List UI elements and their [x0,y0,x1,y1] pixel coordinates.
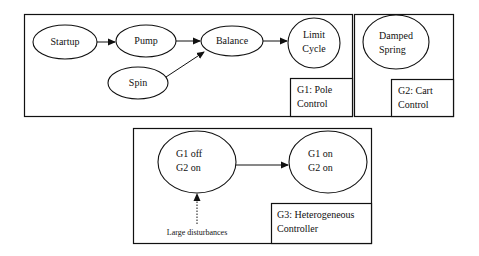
node-g1on-g2on-label: G1 on G2 on [308,147,358,174]
node-damped-spring-label: Damped Spring [379,29,433,56]
node-g1off-g2on-line1: G1 off [176,147,226,161]
group-g3-label: G3: Heterogeneous Controller [277,208,371,235]
node-pump-label: Pump [116,34,176,48]
node-balance-label: Balance [201,34,263,48]
edge-spin-balance [166,52,204,77]
node-damped-spring-line2: Spring [379,43,433,57]
node-limit-cycle-line1: Limit [288,28,340,42]
node-g1off-g2on-label: G1 off G2 on [176,147,226,174]
group-g1-label: G1: Pole Control [297,83,351,110]
node-g1off-g2on-line2: G2 on [176,161,226,175]
group-g2-label-line2: Control [398,98,452,112]
group-g2-label-line1: G2: Cart [398,84,452,98]
node-g1on-g2on-line1: G1 on [308,147,358,161]
group-g1-label-line1: G1: Pole [297,83,351,97]
node-limit-cycle-label: Limit Cycle [288,28,340,55]
node-spin-label: Spin [108,76,168,90]
large-disturbances-label: Large disturbances [147,228,247,239]
node-g1on-g2on-line2: G2 on [308,161,358,175]
group-g1-label-line2: Control [297,97,351,111]
node-startup-label: Startup [33,35,97,49]
group-g3-label-line1: G3: Heterogeneous [277,208,371,222]
group-g3-label-line2: Controller [277,222,371,236]
node-limit-cycle-line2: Cycle [288,42,340,56]
group-g2-label: G2: Cart Control [398,84,452,111]
node-damped-spring-line1: Damped [379,29,433,43]
